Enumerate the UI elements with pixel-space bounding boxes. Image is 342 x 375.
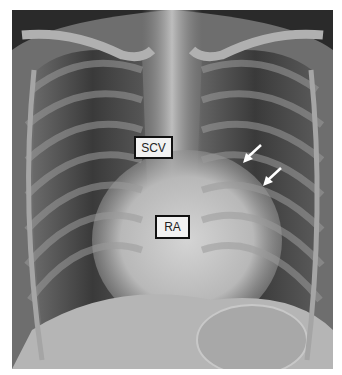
label-ra: RA [155,215,190,239]
chest-xray-image [12,10,333,369]
label-ra-text: RA [164,220,181,234]
xray-graphic [12,10,333,369]
arrow-icon [241,143,263,165]
arrow-icon [261,166,283,188]
label-scv-text: SCV [141,141,166,155]
label-scv: SCV [134,136,173,159]
